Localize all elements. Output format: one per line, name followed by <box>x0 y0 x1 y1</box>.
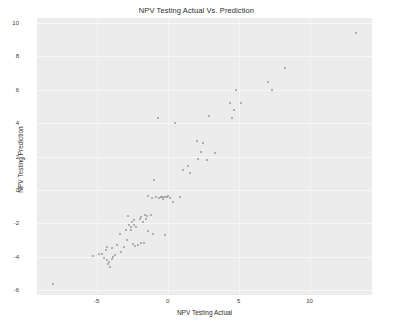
gridline-vertical <box>310 18 311 295</box>
scatter-point <box>130 226 132 228</box>
scatter-point <box>108 261 110 263</box>
scatter-point <box>133 219 135 221</box>
scatter-point <box>152 233 154 235</box>
scatter-point <box>140 216 142 218</box>
x-tick-label: 10 <box>295 298 325 304</box>
gridline-horizontal <box>37 257 372 258</box>
x-tick-label: -5 <box>82 298 112 304</box>
scatter-point <box>206 159 208 161</box>
scatter-point <box>146 215 148 217</box>
gridline-horizontal <box>37 56 372 57</box>
scatter-point <box>174 122 176 124</box>
scatter-point <box>106 246 108 248</box>
scatter-point <box>182 169 184 171</box>
scatter-point <box>116 244 118 246</box>
scatter-point <box>109 266 111 268</box>
scatter-point <box>229 102 231 104</box>
scatter-point <box>235 89 237 91</box>
scatter-point <box>140 242 142 244</box>
y-tick-label: 8 <box>0 53 19 59</box>
scatter-point <box>147 195 149 197</box>
scatter-point <box>202 142 204 144</box>
y-tick-label: -6 <box>0 287 19 293</box>
scatter-point <box>187 165 189 167</box>
scatter-point <box>130 229 132 231</box>
scatter-point <box>233 109 235 111</box>
scatter-point <box>126 239 128 241</box>
scatter-point <box>240 102 242 104</box>
scatter-point <box>231 117 233 119</box>
scatter-point <box>155 196 157 198</box>
scatter-point <box>200 151 202 153</box>
gridline-horizontal <box>37 90 372 91</box>
scatter-point <box>98 253 100 255</box>
scatter-point <box>284 67 286 69</box>
scatter-point <box>145 218 147 220</box>
scatter-point <box>134 245 136 247</box>
scatter-point <box>120 251 122 253</box>
scatter-point <box>196 140 198 142</box>
scatter-point <box>106 259 108 261</box>
scatter-point <box>135 226 137 228</box>
scatter-point <box>101 253 103 255</box>
scatter-point <box>355 32 357 34</box>
scatter-point <box>150 214 152 216</box>
scatter-point <box>208 115 210 117</box>
gridline-horizontal <box>37 190 372 191</box>
scatter-point <box>133 224 135 226</box>
scatter-point <box>125 229 127 231</box>
gridline-horizontal <box>37 123 372 124</box>
gridline-vertical <box>239 18 240 295</box>
scatter-point <box>107 263 109 265</box>
scatter-point <box>169 197 171 199</box>
gridline-vertical <box>168 18 169 295</box>
x-axis-label: NPV Testing Actual <box>37 309 372 316</box>
x-tick-label: 0 <box>153 298 183 304</box>
scatter-point <box>267 81 269 83</box>
scatter-point <box>153 179 155 181</box>
scatter-point <box>114 254 116 256</box>
scatter-point <box>119 233 121 235</box>
scatter-point <box>127 215 129 217</box>
gridline-horizontal <box>37 223 372 224</box>
scatter-point <box>147 230 149 232</box>
scatter-point <box>179 196 181 198</box>
scatter-point <box>123 246 125 248</box>
chart-figure: NPV Testing Actual Vs. Prediction -6-4-2… <box>0 0 393 327</box>
y-axis-label: NPV Testing Prediction <box>17 90 24 230</box>
plot-area <box>37 18 372 295</box>
scatter-point <box>157 117 159 119</box>
scatter-point <box>164 234 166 236</box>
scatter-point <box>162 198 164 200</box>
y-tick-label: 10 <box>0 20 19 26</box>
scatter-point <box>111 247 113 249</box>
scatter-point <box>172 201 174 203</box>
scatter-point <box>103 257 105 259</box>
scatter-point <box>112 256 114 258</box>
scatter-point <box>52 283 54 285</box>
gridline-horizontal <box>37 157 372 158</box>
chart-title: NPV Testing Actual Vs. Prediction <box>0 6 393 15</box>
scatter-point <box>151 197 153 199</box>
scatter-point <box>214 152 216 154</box>
scatter-point <box>105 249 107 251</box>
x-tick-label: 5 <box>224 298 254 304</box>
y-tick-label: -4 <box>0 254 19 260</box>
gridline-horizontal <box>37 23 372 24</box>
scatter-point <box>189 172 191 174</box>
scatter-point <box>137 244 139 246</box>
scatter-point <box>197 158 199 160</box>
scatter-point <box>271 89 273 91</box>
gridline-horizontal <box>37 290 372 291</box>
scatter-point <box>143 242 145 244</box>
